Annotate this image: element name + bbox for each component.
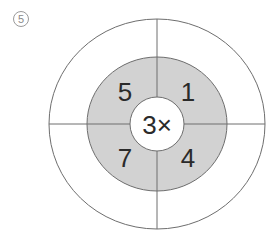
segment-top-left: 5	[118, 77, 132, 107]
segment-bottom-right: 4	[181, 143, 195, 173]
segment-top-right: 1	[181, 77, 195, 107]
segment-bottom-left: 7	[118, 143, 132, 173]
center-operator: 3×	[142, 110, 172, 140]
multiplication-wheel: 3× 5 1 7 4	[0, 0, 278, 242]
